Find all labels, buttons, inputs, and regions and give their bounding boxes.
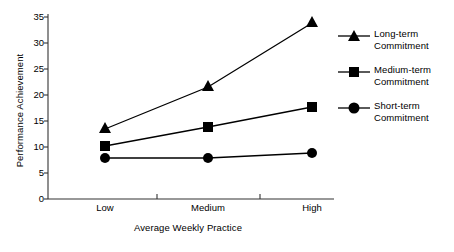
circle-marker-icon [338,101,370,115]
legend-label-line2: Commitment [374,76,431,88]
x-axis-ticks [157,194,260,199]
legend-item-medium-term: Medium-term Commitment [338,64,454,87]
legend-label-long-term: Long-term Commitment [374,28,429,51]
chart-legend: Long-term Commitment Medium-term Commitm… [338,28,454,136]
legend-item-short-term: Short-term Commitment [338,100,454,123]
legend-label-line1: Medium-term [374,64,431,76]
series-markers-medium-term [100,102,317,151]
y-axis-ticks [44,17,48,199]
triangle-marker-icon [338,29,370,43]
legend-label-line1: Long-term [374,28,429,40]
legend-label-line2: Commitment [374,112,429,124]
chart-figure: Performance Achievement 35 30 25 20 15 1… [0,0,454,252]
legend-item-long-term: Long-term Commitment [338,28,454,51]
series-markers-short-term [100,148,317,163]
legend-label-line2: Commitment [374,40,429,52]
series-markers-long-term [99,16,318,133]
legend-label-short-term: Short-term Commitment [374,100,429,123]
legend-label-medium-term: Medium-term Commitment [374,64,431,87]
square-marker-icon [338,65,370,79]
legend-label-line1: Short-term [374,100,429,112]
